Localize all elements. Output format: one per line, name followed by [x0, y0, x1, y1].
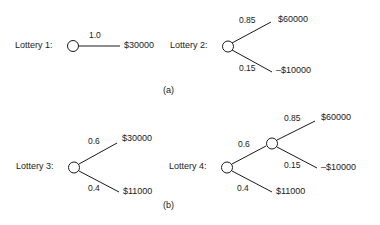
- lottery4-label: Lottery 4:: [169, 162, 207, 171]
- lottery4-subtree-branch-2-payoff: –$10000: [321, 163, 356, 172]
- lottery-tree-figure: Lottery 1: 1.0 $30000 Lottery 2: 0.85 $6…: [0, 0, 380, 225]
- panel-label-b: (b): [163, 201, 174, 210]
- lottery2-branch-1-payoff: $60000: [278, 15, 308, 24]
- lottery3-branch-1-edge: [79, 143, 117, 164]
- lottery4-branch-2-payoff: $11000: [276, 187, 305, 196]
- panel-label-a: (a): [163, 86, 174, 95]
- lottery4-subtree-branch-2-probability: 0.15: [284, 161, 301, 170]
- lottery3-chance-node: [69, 162, 80, 173]
- lottery2-branch-2-probability: 0.15: [239, 64, 256, 73]
- lottery4-subtree-branch-1-payoff: $60000: [321, 113, 351, 122]
- lottery2-label: Lottery 2:: [170, 41, 208, 50]
- lottery4-subtree-branch-1-probability: 0.85: [284, 114, 301, 123]
- lottery3-label: Lottery 3:: [16, 162, 54, 171]
- lottery4-branch-1-probability: 0.6: [238, 140, 250, 149]
- lottery2-chance-node: [223, 41, 234, 52]
- lottery3-branch-1-probability: 0.6: [88, 137, 100, 146]
- lottery3-branch-2-payoff: $11000: [123, 187, 152, 196]
- lottery1-branch-1-probability: 1.0: [89, 31, 101, 40]
- lottery1-label: Lottery 1:: [15, 41, 53, 50]
- lottery4-subtree-chance-node: [267, 138, 278, 149]
- lottery2-branch-1-edge: [232, 22, 271, 43]
- lottery1-branch-1-payoff: $30000: [124, 41, 154, 50]
- lottery2-branch-2-payoff: –$10000: [276, 66, 311, 75]
- lottery3-branch-1-payoff: $30000: [122, 134, 152, 143]
- lottery4-branch-2-probability: 0.4: [237, 184, 249, 193]
- lottery1-chance-node: [68, 41, 79, 52]
- lottery4-chance-node: [222, 162, 233, 173]
- lottery3-branch-2-probability: 0.4: [88, 184, 100, 193]
- lottery2-branch-1-probability: 0.85: [239, 16, 256, 25]
- lottery4-subtree-branch-1-edge: [277, 121, 315, 140]
